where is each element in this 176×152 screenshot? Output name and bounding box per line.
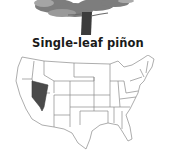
species-name: Single-leaf piñon: [0, 36, 176, 50]
range-map: [14, 55, 166, 152]
us-map-icon: [14, 55, 166, 152]
tree-illustration: [0, 0, 176, 36]
nevada-highlight: [32, 81, 48, 111]
pine-tree-icon: [0, 0, 176, 36]
